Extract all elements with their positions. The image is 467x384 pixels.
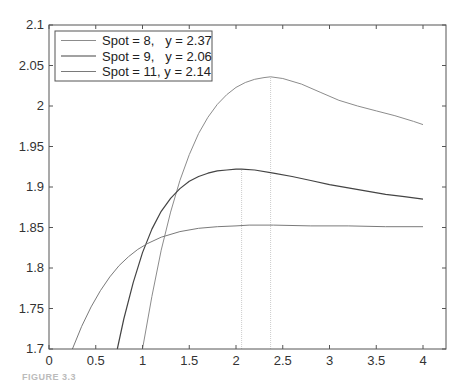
legend: Spot = 8, y = 2.37 Spot = 9, y = 2.06 Sp… [55, 31, 212, 81]
x-tick-label: 1.5 [180, 353, 198, 368]
x-tick-label: 3 [326, 353, 333, 368]
x-tick-label: 0.5 [87, 353, 105, 368]
series-lines [72, 77, 423, 349]
reference-lines [242, 77, 271, 349]
y-tick-label: 1.85 [19, 220, 44, 235]
x-tick-label: 2 [232, 353, 239, 368]
y-tick-label: 1.75 [19, 301, 44, 316]
legend-label: Spot = 11, y = 2.14 [102, 64, 211, 79]
y-tick-label: 2.1 [26, 17, 44, 32]
legend-label: Spot = 8, y = 2.37 [102, 33, 212, 48]
y-tick-label: 1.7 [26, 341, 44, 356]
x-tick-label: 2.5 [274, 353, 292, 368]
figure-caption: FIGURE 3.3 [22, 372, 76, 382]
x-tick-label: 0 [45, 353, 52, 368]
series-line [72, 225, 423, 349]
x-tick-label: 1 [139, 353, 146, 368]
y-tick-label: 1.9 [26, 179, 44, 194]
y-tick-label: 2 [37, 98, 44, 113]
legend-label: Spot = 9, y = 2.06 [102, 49, 212, 64]
x-tick-label: 4 [419, 353, 426, 368]
y-tick-label: 1.8 [26, 260, 44, 275]
y-tick-label: 1.95 [19, 139, 44, 154]
line-chart: 00.511.522.533.54 1.71.751.81.851.91.952… [0, 0, 467, 384]
series-line [143, 77, 424, 349]
y-tick-label: 2.05 [19, 58, 44, 73]
x-tick-label: 3.5 [367, 353, 385, 368]
